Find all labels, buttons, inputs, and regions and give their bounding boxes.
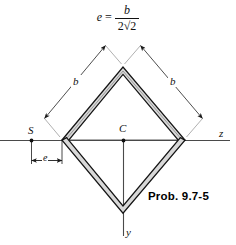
axis-y-label: y [126,226,131,238]
shear-center-point [30,139,34,143]
centroid-label: C [119,122,126,134]
dimension-label-e: e [42,152,48,163]
problem-figure: e = b 2√2 [0,0,236,245]
centroid-point [122,139,126,143]
extension-line-b-right-upper [125,46,141,65]
dimension-label-b-left: b [71,75,81,87]
dimension-label-b-right: b [168,75,178,87]
extension-line-b-left-lower [45,119,61,138]
extension-line-b-right-lower [187,119,203,138]
axis-z-label: z [219,127,223,139]
figure-canvas [0,0,236,245]
shear-center-label: S [28,124,34,136]
figure-caption: Prob. 9.7-5 [148,190,209,202]
extension-line-b-left-upper [106,46,122,65]
